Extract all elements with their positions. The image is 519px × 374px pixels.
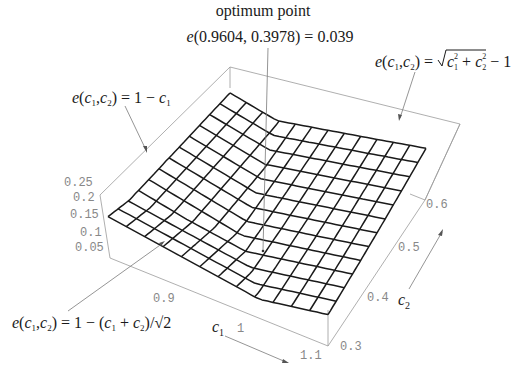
surface-mesh [108, 93, 426, 315]
surface-plot: 0.25 0.2 0.15 0.05 0.1 0.9 1 1.1 0.3 0.4… [0, 0, 519, 374]
c2-axis-ticks: 0.3 0.4 0.5 0.6 [340, 198, 448, 354]
mesh-line-c1 [108, 93, 230, 217]
mesh-line-c2 [200, 125, 402, 190]
svg-text:e(c1,c2) = 1 − (c1 + c2)/√2: e(c1,c2) = 1 − (c1 + c2)/√2 [12, 314, 171, 333]
svg-text:c1: c1 [212, 318, 224, 338]
optimum-point-marker [262, 250, 265, 253]
z-tick: 0.15 [70, 208, 99, 222]
mesh-line-c1 [310, 145, 410, 310]
c1-arrow-icon [282, 359, 289, 363]
mesh-line-c1 [328, 148, 426, 314]
c2-tick: 0.4 [367, 291, 389, 305]
c1-tick: 1.1 [300, 349, 322, 363]
mesh-line-c2 [230, 93, 426, 148]
c2-arrow-icon [438, 229, 443, 236]
mesh-line-c1 [291, 142, 393, 306]
arrow-icon [398, 114, 402, 121]
c1-axis-label: c1 [212, 318, 289, 363]
z-tick: 0.25 [64, 176, 93, 190]
annotation-region2: e(c1,c2) = c12 + c22 − 1 [375, 50, 511, 121]
mesh-line-c1 [181, 124, 295, 257]
z-tick: 0.2 [73, 191, 95, 205]
optimum-annotation: optimum point e(0.9604, 0.3978) = 0.039 [187, 2, 354, 252]
optimum-value: e(0.9604, 0.3978) = 0.039 [187, 28, 354, 46]
mesh-line-c2 [220, 104, 418, 163]
mesh-line-c1 [145, 112, 263, 236]
svg-text:c12 + c22 − 1: c12 + c22 − 1 [447, 52, 511, 72]
c1-axis-ticks: 0.9 1 1.1 [153, 292, 322, 363]
z-tick: 0.1 [80, 226, 102, 240]
annotation-region1: e(c1,c2) = 1 − c1 [72, 89, 171, 153]
c2-tick: 0.3 [340, 340, 362, 354]
svg-text:e(c1,c2) = 1 − c1: e(c1,c2) = 1 − c1 [72, 89, 171, 108]
z-tick: 0.05 [75, 241, 104, 255]
svg-text:c2: c2 [398, 291, 410, 311]
svg-text:e(c1,c2) =: e(c1,c2) = [375, 53, 433, 72]
z-axis-ticks: 0.25 0.2 0.15 0.05 0.1 [64, 176, 104, 255]
c2-tick: 0.5 [398, 241, 420, 255]
optimum-title: optimum point [216, 2, 311, 20]
c2-tick: 0.6 [426, 198, 448, 212]
c1-tick: 0.9 [153, 292, 175, 306]
c1-tick: 1 [237, 322, 244, 336]
mesh-line-c1 [126, 103, 246, 227]
